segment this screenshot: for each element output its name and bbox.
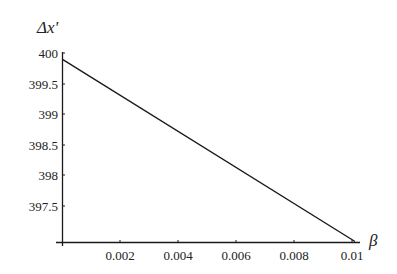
y-tick-labels: 400 399.5 399 398.5 398 397.5 (29, 46, 58, 214)
x-axis-label: β (368, 231, 378, 250)
y-tick-label: 398 (39, 168, 59, 183)
x-tick-label: 0.004 (163, 248, 193, 263)
y-tick-label: 398.5 (29, 138, 58, 153)
x-tick-label: 0.01 (341, 248, 364, 263)
y-axis-label: Δx' (36, 18, 59, 37)
x-tick-labels: 0.002 0.004 0.006 0.008 0.01 (105, 248, 363, 263)
x-tick-label: 0.008 (279, 248, 308, 263)
x-tick-label: 0.002 (105, 248, 134, 263)
x-tick-label: 0.006 (221, 248, 251, 263)
line-chart: 400 399.5 399 398.5 398 397.5 0.002 0.00… (0, 0, 397, 274)
y-tick-label: 397.5 (29, 199, 58, 214)
data-series-line (63, 59, 356, 241)
y-tick-label: 400 (39, 46, 59, 61)
chart-container: 400 399.5 399 398.5 398 397.5 0.002 0.00… (0, 0, 397, 274)
y-tick-label: 399 (39, 107, 59, 122)
y-tick-label: 399.5 (29, 77, 58, 92)
